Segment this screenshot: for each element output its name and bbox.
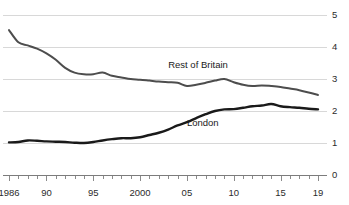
y-tick-label-5: 5 — [332, 10, 337, 20]
x-tick-label-10: 10 — [214, 188, 254, 198]
series-line-rest-of-britain — [9, 30, 318, 95]
y-tick-label-1: 1 — [332, 138, 337, 148]
y-tick-label-4: 4 — [332, 42, 337, 52]
y-tick-label-3: 3 — [332, 74, 337, 84]
y-tick-label-2: 2 — [332, 106, 337, 116]
line-chart: 012345 19869095200005101519 Rest of Brit… — [0, 0, 349, 205]
x-tick-label-19: 19 — [298, 188, 338, 198]
series-label-rest-of-britain: Rest of Britain — [168, 60, 228, 70]
series-label-london: London — [187, 118, 219, 128]
x-tick-label-2000: 2000 — [120, 188, 160, 198]
x-tick-label-15: 15 — [261, 188, 301, 198]
x-tick-label-05: 05 — [167, 188, 207, 198]
y-tick-label-0: 0 — [332, 170, 337, 180]
x-tick-label-95: 95 — [73, 188, 113, 198]
data-series — [9, 30, 318, 143]
x-axis — [3, 176, 327, 182]
gridlines — [3, 16, 327, 144]
x-tick-label-1986: 1986 — [0, 188, 29, 198]
x-tick-label-90: 90 — [26, 188, 66, 198]
chart-plot-area — [0, 0, 349, 205]
series-line-london — [9, 104, 318, 143]
